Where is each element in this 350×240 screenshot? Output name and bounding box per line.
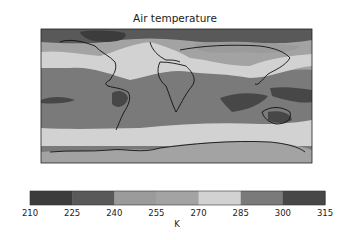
colorbar-label: K [174,219,180,229]
colorbar-segment [241,191,284,205]
map-plot [41,29,312,163]
colorbar-segment [156,191,199,205]
colorbar-tick-label: 285 [233,208,249,218]
colorbar-segment [114,191,157,205]
colorbar-segment [30,191,73,205]
colorbar-tick-label: 255 [148,208,164,218]
colorbar-tick-label: 300 [275,208,291,218]
colorbar-ticks: 210225240255270285300315 [22,208,333,218]
colorbar-segment [199,191,242,205]
colorbar-tick-label: 270 [190,208,206,218]
colorbar-tick-label: 240 [106,208,122,218]
colorbar-segment [72,191,115,205]
colorbar-tick-label: 315 [317,208,333,218]
colorbar-segment [283,191,326,205]
colorbar-tick-label: 210 [22,208,38,218]
colorbar-tick-label: 225 [64,208,80,218]
chart-svg: 210225240255270285300315 K [0,0,350,240]
colorbar [30,191,326,205]
